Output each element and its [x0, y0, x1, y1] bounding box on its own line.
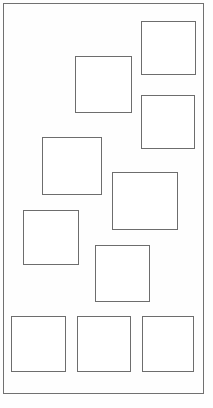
- square-left-middle: [42, 137, 102, 195]
- diagram-canvas: [0, 0, 213, 408]
- square-bottom-right: [142, 316, 194, 372]
- square-center: [112, 172, 178, 230]
- square-left-lower-mid: [23, 210, 79, 265]
- square-center-lower: [95, 245, 150, 302]
- square-bottom-center: [77, 316, 131, 372]
- square-upper-center: [75, 56, 132, 113]
- square-bottom-left: [11, 316, 66, 372]
- square-top-right: [141, 21, 196, 75]
- square-right-upper-mid: [141, 95, 195, 149]
